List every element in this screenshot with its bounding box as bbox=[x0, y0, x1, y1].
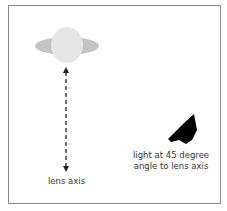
lens-axis-arrow bbox=[63, 67, 69, 172]
light-source-icon bbox=[168, 114, 197, 144]
light-angle-label: light at 45 degree angle to lens axis bbox=[133, 150, 209, 172]
diagram-canvas bbox=[0, 0, 227, 211]
light-label-line1: light at 45 degree bbox=[133, 150, 209, 161]
lens-axis-label: lens axis bbox=[48, 176, 85, 187]
light-label-line2: angle to lens axis bbox=[133, 161, 209, 172]
lens-icon bbox=[35, 27, 99, 63]
